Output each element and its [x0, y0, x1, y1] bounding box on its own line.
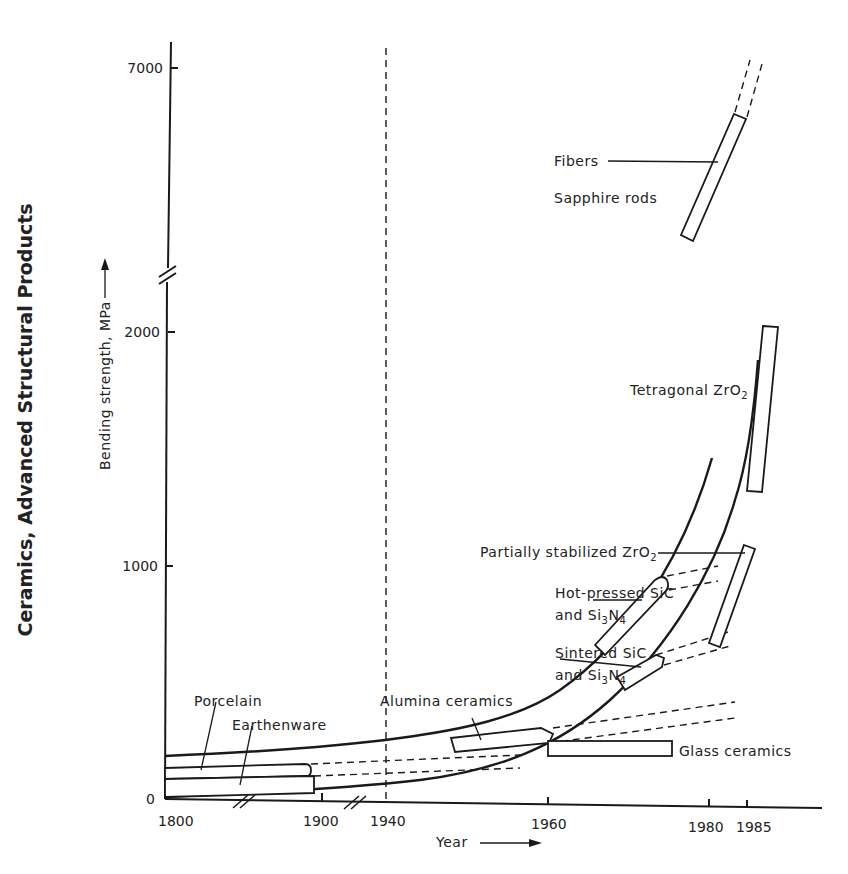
x-tick-1960: 1960 — [531, 816, 567, 832]
x-tick-1980: 1980 — [688, 819, 724, 835]
label-sapphire-rods: Sapphire rods — [554, 190, 657, 206]
label-porcelain: Porcelain — [194, 693, 262, 709]
y-axis-label: Bending strength, MPa — [97, 301, 113, 470]
x-tick-1800: 1800 — [158, 813, 194, 829]
y-tick-7000: 7000 — [127, 60, 163, 76]
tetragonal-zro2-band: Tetragonal ZrO2 — [629, 326, 778, 492]
x-tick-1985: 1985 — [736, 819, 772, 835]
x-tick-1900: 1900 — [303, 813, 339, 829]
strength-chart: 7000 2000 1000 0 Bending strength, MPa 1… — [0, 0, 848, 874]
x-axis: 1800 1900 1940 1960 1980 1985 Year — [158, 793, 822, 850]
arrow-up-icon — [101, 258, 109, 270]
y-axis: 7000 2000 1000 0 Bending strength, MPa — [97, 42, 178, 807]
label-tetragonal-zro2: Tetragonal ZrO2 — [629, 382, 748, 401]
arrow-right-icon — [529, 839, 542, 847]
y-tick-0: 0 — [146, 791, 155, 807]
label-alumina-ceramics: Alumina ceramics — [380, 693, 513, 709]
y-tick-1000: 1000 — [122, 558, 158, 574]
x-tick-1940: 1940 — [370, 813, 406, 829]
hot-pressed-sic-band: Hot-pressed SiC and Si3N4 — [555, 566, 718, 655]
label-earthenware: Earthenware — [232, 717, 327, 733]
fibers-sapphire-band: Fibers Sapphire rods — [554, 60, 762, 241]
label-glass-ceramics: Glass ceramics — [679, 743, 792, 759]
y-tick-2000: 2000 — [124, 324, 160, 340]
sintered-sic-band: Sintered SiC and Si3N4 — [555, 632, 730, 690]
label-fibers: Fibers — [554, 153, 598, 169]
label-hot-pressed-sic: Hot-pressed SiC — [555, 585, 674, 601]
glass-ceramics-band: Glass ceramics — [548, 741, 792, 759]
x-axis-label: Year — [435, 834, 468, 850]
label-partially-stabilized-zro2: Partially stabilized ZrO2 — [480, 544, 657, 563]
label-sintered-si3n4: and Si3N4 — [555, 667, 626, 686]
